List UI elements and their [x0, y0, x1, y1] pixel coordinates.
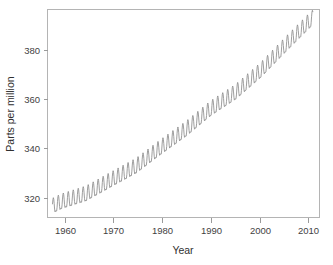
- x-axis-title: Year: [172, 244, 194, 256]
- y-tick-label-320: 320: [24, 193, 40, 204]
- x-tick-label-1960: 1960: [55, 225, 76, 236]
- y-tick-label-340: 340: [24, 143, 40, 154]
- y-axis-ticks: [44, 51, 48, 199]
- x-axis-ticks: [66, 218, 309, 223]
- x-tick-label-1990: 1990: [201, 225, 222, 236]
- x-tick-label-2010: 2010: [298, 225, 319, 236]
- y-tick-label-360: 360: [24, 94, 40, 105]
- y-axis-title: Parts per million: [4, 76, 16, 151]
- y-tick-label-380: 380: [24, 45, 40, 56]
- x-tick-label-1970: 1970: [103, 225, 124, 236]
- x-tick-label-1980: 1980: [152, 225, 173, 236]
- x-tick-label-2000: 2000: [250, 225, 271, 236]
- co2-line-chart: 380 360 340 320 1960 1970 1980 1990 2000…: [0, 0, 333, 265]
- co2-series-line: [53, 10, 313, 212]
- chart-figure: 380 360 340 320 1960 1970 1980 1990 2000…: [0, 0, 333, 265]
